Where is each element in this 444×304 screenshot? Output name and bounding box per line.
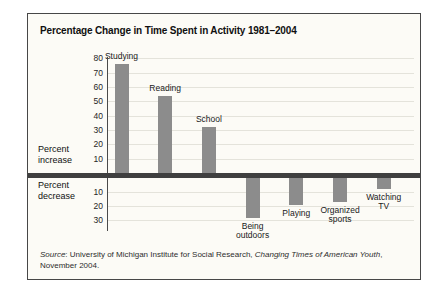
source-note: Source: University of Michigan Institute… [40, 250, 412, 271]
y-tick-label: 10 [73, 187, 103, 197]
bar [289, 178, 303, 205]
y-tick-label: 70 [73, 68, 103, 78]
percent-increase-label: Percent increase [38, 144, 72, 166]
source-work-title: Changing Times of American Youth [255, 250, 380, 259]
y-tick-label: 30 [73, 215, 103, 225]
zero-divider-line [28, 173, 420, 178]
bar-label: Reading [133, 84, 197, 94]
bar-label: Beingoutdoors [221, 222, 285, 241]
bar [377, 178, 391, 189]
source-date: November 2004. [40, 261, 99, 270]
gridline [107, 130, 414, 131]
y-tick-label: 10 [73, 154, 103, 164]
bar [115, 64, 129, 173]
gridline [107, 73, 414, 74]
source-word: Source [40, 250, 65, 259]
y-tick-label: 20 [73, 201, 103, 211]
chart-title: Percentage Change in Time Spent in Activ… [40, 25, 297, 36]
percent-decrease-label: Percent decrease [38, 180, 75, 202]
gridline [107, 144, 414, 145]
bar [246, 178, 260, 218]
gridline [107, 159, 414, 160]
bar [158, 96, 172, 173]
gridline [107, 116, 414, 117]
bar-label: Studying [90, 52, 154, 62]
bar [202, 127, 216, 173]
bar [333, 178, 347, 202]
y-axis-line [107, 57, 109, 231]
bar-label: School [177, 115, 241, 125]
y-tick-label: 50 [73, 96, 103, 106]
chart-figure: Percentage Change in Time Spent in Activ… [27, 13, 421, 280]
y-tick-label: 20 [73, 139, 103, 149]
y-tick-label: 60 [73, 82, 103, 92]
y-tick-label: 30 [73, 125, 103, 135]
source-text: : University of Michigan Institute for S… [65, 250, 254, 259]
y-tick-label: 40 [73, 111, 103, 121]
gridline [107, 101, 414, 102]
bar-label: WatchingTV [352, 193, 416, 212]
